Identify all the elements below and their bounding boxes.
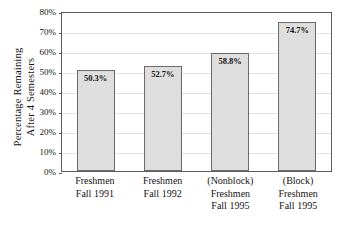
- y-tick-label: 60%: [24, 48, 56, 57]
- y-tick-label: 20%: [24, 128, 56, 137]
- x-category-label-line: Fall 1992: [129, 188, 197, 201]
- y-tick-label: 0%: [24, 168, 56, 177]
- x-axis-category-labels: FreshmenFall 1991FreshmenFall 1992(Nonbl…: [61, 175, 332, 213]
- bar[interactable]: 50.3%: [77, 70, 115, 171]
- x-category-label-line: Fall 1991: [61, 188, 129, 201]
- x-category-label-line: (Block): [264, 175, 332, 188]
- y-tick-label: 70%: [24, 28, 56, 37]
- x-category-label-line: Fall 1995: [197, 200, 265, 213]
- y-tick-label: 30%: [24, 108, 56, 117]
- x-category-label-line: Freshmen: [264, 188, 332, 201]
- x-category-label: (Block)FreshmenFall 1995: [264, 175, 332, 213]
- y-tick-label: 50%: [24, 68, 56, 77]
- x-category-label: (Nonblock)FreshmenFall 1995: [197, 175, 265, 213]
- y-tick-label: 40%: [24, 88, 56, 97]
- x-category-label: FreshmenFall 1991: [61, 175, 129, 213]
- x-category-label-line: Freshmen: [197, 188, 265, 201]
- bar-value-label: 50.3%: [78, 73, 114, 83]
- x-category-label-line: Freshmen: [129, 175, 197, 188]
- y-axis-title-line-1: Percentage Remaining: [11, 10, 24, 185]
- plot-area: 50.3%52.7%58.8%74.7%: [61, 12, 332, 172]
- y-tick-label: 10%: [24, 148, 56, 157]
- chart-figure: Percentage Remaining After 4 Semesters 0…: [0, 0, 355, 227]
- clipped-title-remnant: [30, 0, 230, 2]
- bar[interactable]: 58.8%: [211, 53, 249, 171]
- bar-value-label: 52.7%: [145, 69, 181, 79]
- x-category-label: FreshmenFall 1992: [129, 175, 197, 213]
- bar-value-label: 58.8%: [212, 56, 248, 66]
- y-axis-tick-labels: 0%10%20%30%40%50%60%70%80%: [24, 8, 56, 172]
- x-category-label-line: Fall 1995: [264, 200, 332, 213]
- bar-column: 58.8%: [197, 13, 264, 171]
- bar-column: 52.7%: [129, 13, 196, 171]
- bar-series: 50.3%52.7%58.8%74.7%: [62, 13, 331, 171]
- x-category-label-line: Freshmen: [61, 175, 129, 188]
- y-tick-mark: [59, 173, 62, 174]
- x-category-label-line: (Nonblock): [197, 175, 265, 188]
- bar-value-label: 74.7%: [279, 25, 315, 35]
- bar-column: 50.3%: [62, 13, 129, 171]
- bar[interactable]: 74.7%: [278, 22, 316, 171]
- bar-column: 74.7%: [264, 13, 331, 171]
- y-tick-label: 80%: [24, 8, 56, 17]
- bar[interactable]: 52.7%: [144, 66, 182, 171]
